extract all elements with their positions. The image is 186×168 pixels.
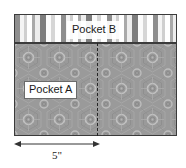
pocket-layout-diagram: Pocket B Pocket A 5" <box>0 0 186 168</box>
dimension-annotation: 5" <box>14 138 100 168</box>
pocket-b-label: Pocket B <box>67 21 121 39</box>
pocket-a-split-dashed-line <box>97 43 98 136</box>
dimension-value-label: 5" <box>14 149 100 161</box>
pocket-a-label: Pocket A <box>24 81 77 99</box>
